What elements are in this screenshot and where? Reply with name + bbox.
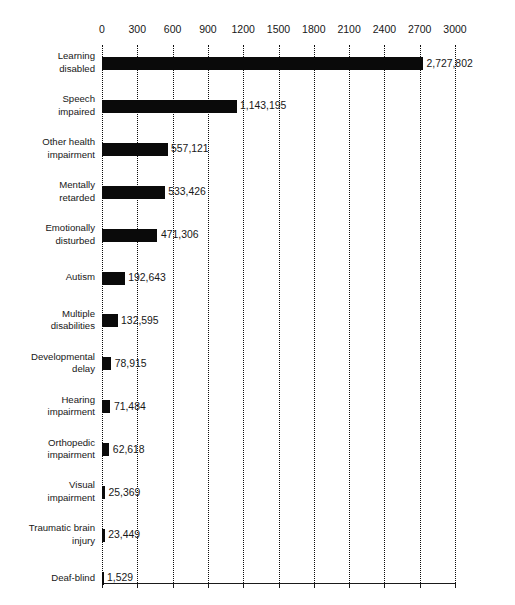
bar-value-label: 78,915 <box>115 357 147 370</box>
bar-value-label: 1,143,195 <box>240 99 286 112</box>
bar-value-label: 533,426 <box>168 185 206 198</box>
bar <box>102 143 168 156</box>
x-tick-label-900: 900 <box>199 23 217 35</box>
gridline-2700 <box>420 45 421 583</box>
category-label: Visual impairment <box>0 479 95 504</box>
bar-value-label: 62,618 <box>113 443 145 456</box>
category-label: Speech impaired <box>0 93 95 118</box>
bar-value-label: 2,727,802 <box>426 57 472 70</box>
bar-value-label: 1,529 <box>107 571 133 584</box>
bar <box>102 272 125 285</box>
bar <box>102 100 237 113</box>
category-label: Other health impairment <box>0 136 95 161</box>
bar <box>102 57 423 70</box>
category-label: Learning disabled <box>0 50 95 75</box>
bar-value-label: 25,369 <box>108 486 140 499</box>
bar <box>102 572 104 585</box>
bar-value-label: 192,643 <box>128 271 166 284</box>
category-label: Hearing impairment <box>0 394 95 419</box>
bar <box>102 186 165 199</box>
gridline-600 <box>173 45 174 583</box>
bar-value-label: 471,306 <box>161 228 199 241</box>
gridline-1500 <box>279 45 280 583</box>
category-label: Emotionally disturbed <box>0 222 95 247</box>
category-label: Multiple disabilities <box>0 308 95 333</box>
gridline-3000 <box>455 45 456 583</box>
gridline-900 <box>208 45 209 583</box>
x-tick-label-2400: 2400 <box>373 23 396 35</box>
x-tick-label-2100: 2100 <box>337 23 360 35</box>
bar <box>102 400 110 413</box>
x-tick-label-2700: 2700 <box>408 23 431 35</box>
bar <box>102 529 105 542</box>
category-label: Traumatic brain injury <box>0 522 95 547</box>
x-tick-label-1500: 1500 <box>267 23 290 35</box>
bar-value-label: 71,484 <box>114 400 146 413</box>
bar <box>102 314 118 327</box>
x-axis-line <box>102 583 456 584</box>
bar-value-label: 557,121 <box>171 142 209 155</box>
x-tick-label-1200: 1200 <box>232 23 255 35</box>
category-label: Developmental delay <box>0 351 95 376</box>
bar <box>102 486 105 499</box>
category-label: Orthopedic impairment <box>0 437 95 462</box>
x-tick-label-3000: 3000 <box>443 23 466 35</box>
bar-value-label: 23,449 <box>108 528 140 541</box>
bar-value-label: 132,595 <box>121 314 159 327</box>
bar-chart: 03006009001200150018002100240027003000 L… <box>0 0 515 605</box>
category-label: Autism <box>0 271 95 284</box>
category-label: Mentally retarded <box>0 179 95 204</box>
bar <box>102 229 157 242</box>
x-tick-label-300: 300 <box>129 23 147 35</box>
gridline-1800 <box>314 45 315 583</box>
category-label: Deaf-blind <box>0 572 95 585</box>
clipped-header-text <box>300 0 480 5</box>
gridline-2400 <box>384 45 385 583</box>
gridline-2100 <box>349 45 350 583</box>
x-tick-label-600: 600 <box>164 23 182 35</box>
bar <box>102 357 111 370</box>
x-tick-label-0: 0 <box>99 23 105 35</box>
bar <box>102 443 109 456</box>
gridline-1200 <box>243 45 244 583</box>
x-tick-label-1800: 1800 <box>302 23 325 35</box>
